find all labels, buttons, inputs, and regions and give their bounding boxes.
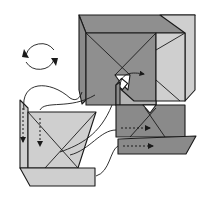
lower-left-unit	[20, 100, 96, 186]
upper-right-unit	[79, 15, 195, 105]
rotate-icon	[22, 44, 58, 70]
origami-diagram	[0, 0, 209, 203]
